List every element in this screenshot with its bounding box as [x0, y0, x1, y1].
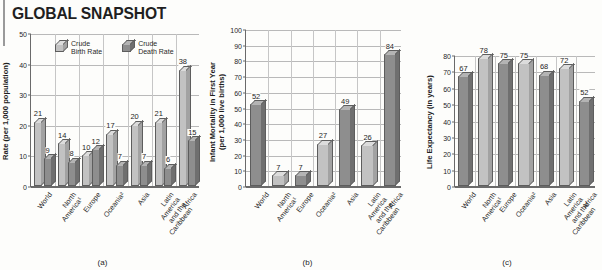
plot-area-a: 0102030405021141017202138981277615WorldN…: [30, 34, 199, 187]
y-tick-mark: [28, 156, 31, 157]
category-divider: [495, 56, 496, 186]
category-divider: [576, 56, 577, 186]
bar: 7: [272, 175, 284, 186]
y-tick-mark: [28, 95, 31, 96]
y-tick-label: 0: [23, 184, 27, 191]
y-tick-label: 80: [443, 53, 451, 60]
bar-birth-rate: 21: [155, 122, 163, 186]
gridline: [31, 95, 199, 96]
bar-side: [508, 58, 513, 186]
bar: 7: [295, 175, 307, 186]
bar-value-label: 15: [188, 129, 197, 137]
bar-birth-rate: 20: [131, 125, 139, 186]
y-axis-label-b: Infant Mortality in First Year (per 1,00…: [209, 32, 227, 192]
bar-death-rate: 15: [188, 140, 196, 186]
bar-value-label: 21: [154, 110, 163, 118]
bar: 68: [539, 75, 550, 186]
y-tick-mark: [452, 187, 455, 188]
bar-side: [75, 157, 80, 186]
bar-side: [51, 153, 56, 186]
y-tick-label: 40: [443, 118, 451, 125]
bar: 75: [518, 63, 529, 186]
bar-side: [529, 58, 534, 186]
plot-area-c: 0102030405060708067787575687252WorldNort…: [454, 56, 595, 187]
bar-side: [328, 139, 333, 186]
bar-face: [361, 145, 373, 186]
global-snapshot-figure: GLOBAL SNAPSHOT Rate (per 1,000 populati…: [0, 0, 602, 270]
y-tick-mark: [243, 124, 246, 125]
panel-letter-b: (b): [303, 258, 313, 267]
chart-panel-a: Rate (per 1,000 population) 010203040502…: [0, 26, 205, 270]
bar: 72: [559, 68, 570, 186]
bar-death-rate: 6: [164, 168, 172, 186]
x-category-label: World: [253, 191, 271, 211]
bar-side: [589, 96, 594, 186]
y-tick-mark: [243, 155, 246, 156]
category-divider: [291, 30, 292, 186]
legend-swatch-icon: [55, 44, 64, 52]
bar-value-label: 68: [539, 63, 548, 71]
bar-death-rate: 7: [140, 165, 148, 186]
y-tick-label: 50: [19, 31, 27, 38]
legend-label: Crude Birth Rate: [71, 40, 102, 56]
bar-value-label: 84: [385, 43, 394, 51]
bar-face: [518, 63, 529, 186]
bar-side: [395, 49, 400, 186]
x-category-label: Oceania²: [102, 191, 126, 219]
bar-side: [99, 144, 104, 186]
y-tick-label: 70: [234, 74, 242, 81]
bar-value-label: 17: [106, 122, 115, 130]
y-tick-label: 30: [234, 136, 242, 143]
bar-value-label: 8: [69, 150, 74, 158]
bar-death-rate: 8: [68, 162, 76, 186]
gridline: [31, 187, 199, 188]
y-tick-label: 20: [443, 151, 451, 158]
y-tick-mark: [243, 77, 246, 78]
y-tick-label: 90: [234, 42, 242, 49]
x-category-label: Asia: [136, 191, 151, 207]
bar-value-label: 27: [318, 132, 327, 140]
category-divider: [357, 30, 358, 186]
bar: 78: [478, 58, 489, 186]
y-tick-mark: [243, 187, 246, 188]
bar: 49: [339, 109, 351, 186]
y-tick-label: 50: [234, 105, 242, 112]
y-tick-label: 0: [238, 184, 242, 191]
bar-value-label: 75: [499, 52, 508, 60]
y-tick-label: 10: [19, 153, 27, 160]
bar-value-label: 12: [91, 138, 100, 146]
bar-value-label: 7: [276, 164, 281, 172]
bar-value-label: 20: [130, 113, 139, 121]
bar-value-label: 7: [141, 153, 146, 161]
bar-value-label: 49: [341, 98, 350, 106]
page-title: GLOBAL SNAPSHOT: [12, 4, 166, 24]
x-category-label: World: [460, 191, 478, 211]
y-tick-label: 20: [234, 152, 242, 159]
y-tick-mark: [243, 108, 246, 109]
bar-value-label: 52: [580, 89, 589, 97]
y-tick-label: 10: [234, 168, 242, 175]
bar-face: [272, 175, 284, 186]
bar-value-label: 38: [178, 58, 187, 66]
bar-side: [261, 99, 266, 186]
bar-death-rate: 9: [44, 158, 52, 186]
bar-value-label: 72: [560, 57, 569, 65]
bar: 75: [498, 63, 509, 186]
x-category-label: Asia: [543, 191, 558, 207]
y-tick-label: 60: [443, 85, 451, 92]
y-tick-mark: [243, 45, 246, 46]
x-category-label: Europe: [82, 191, 103, 214]
legend-item: Crude Birth Rate: [55, 40, 102, 56]
x-category-label: Europe: [295, 191, 316, 214]
bar-side: [549, 70, 554, 186]
x-category-label: Oceania²: [314, 191, 338, 219]
y-tick-mark: [243, 92, 246, 93]
bar-side: [123, 160, 128, 186]
bar-value-label: 9: [45, 147, 50, 155]
bar-value-label: 7: [298, 164, 303, 172]
bar-birth-rate: 38: [179, 70, 187, 186]
chart-panel-b: Infant Mortality in First Year (per 1,00…: [205, 26, 410, 270]
category-divider: [475, 56, 476, 186]
bar-birth-rate: 21: [34, 122, 42, 186]
gridline: [455, 187, 595, 188]
